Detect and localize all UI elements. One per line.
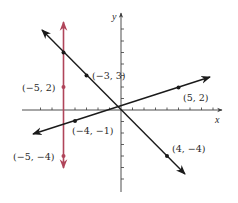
label-5-2: (5, 2)	[183, 92, 209, 103]
point-4-neg4	[165, 154, 169, 158]
x-axis-label: x	[214, 114, 220, 125]
point-on-line-upper	[62, 51, 66, 55]
point-neg3-3	[85, 74, 89, 78]
label-neg5-neg4: (−5, −4)	[13, 151, 54, 162]
point-neg5-2	[62, 85, 66, 89]
label-neg3-3: (−3, 3)	[92, 70, 126, 81]
coordinate-plane-figure: x y	[0, 0, 238, 203]
point-neg4-neg1	[73, 119, 77, 123]
point-5-2	[177, 86, 181, 90]
vertical-line-x-neg5	[62, 22, 66, 168]
label-4-neg4: (4, −4)	[172, 143, 206, 154]
label-neg5-2: (−5, 2)	[22, 82, 56, 93]
point-neg5-neg4	[62, 154, 66, 158]
y-axis-label: y	[111, 11, 117, 22]
label-neg4-neg1: (−4, −1)	[72, 125, 113, 136]
line-through-neg4-neg1-and-5-2	[33, 77, 210, 134]
